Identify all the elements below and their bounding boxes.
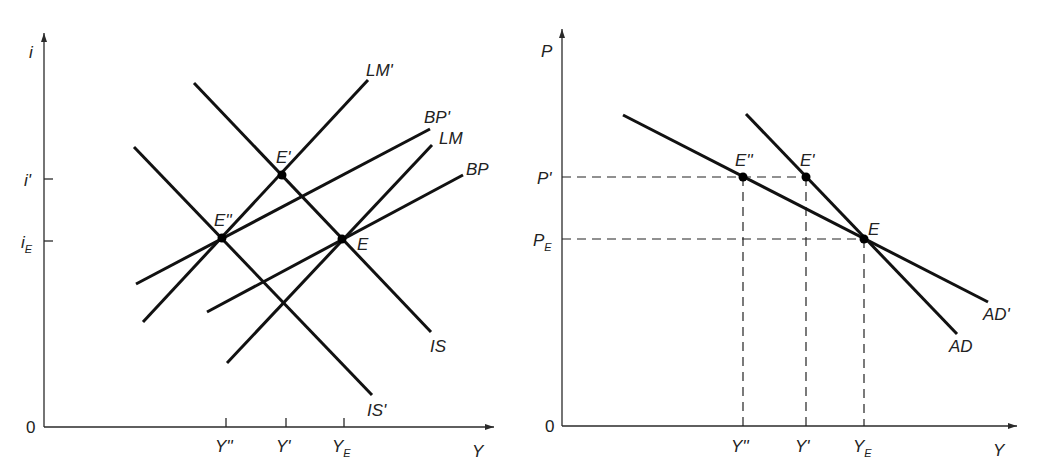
is-curve <box>194 83 431 332</box>
e-label: E <box>357 235 369 254</box>
right-x-axis-label: Y <box>993 441 1006 460</box>
left-x-axis-label: Y <box>472 442 485 461</box>
e-point <box>338 235 347 244</box>
right-y-axis-label: P <box>541 42 553 61</box>
diagram-canvas: i Y 0 i' iE Y'' Y' YE LM' BP' LM BP IS I… <box>0 0 1038 472</box>
right-e-double-prime-point <box>739 173 748 182</box>
y-e-label: YE <box>332 437 351 459</box>
lm-prime-label: LM' <box>366 61 394 80</box>
e-prime-label: E' <box>276 148 291 167</box>
i-e-label: iE <box>21 233 33 255</box>
islmbp-panel: i Y 0 i' iE Y'' Y' YE LM' BP' LM BP IS I… <box>21 33 494 461</box>
ad-prime-label: AD' <box>982 305 1011 324</box>
bp-curve <box>207 175 463 312</box>
right-e-label: E <box>868 220 880 239</box>
right-y-prime-label: Y' <box>795 437 810 456</box>
ad-curve <box>746 114 957 334</box>
is-prime-curve <box>134 147 372 395</box>
e-double-prime-point <box>218 234 227 243</box>
e-prime-point <box>278 171 287 180</box>
right-e-prime-label: E' <box>800 151 815 170</box>
bp-label: BP <box>466 160 489 179</box>
p-prime-label: P' <box>537 169 552 188</box>
bp-prime-label: BP' <box>424 108 451 127</box>
lm-curve <box>227 145 432 363</box>
i-prime-label: i' <box>24 171 32 190</box>
right-y-double-prime-label: Y'' <box>731 437 750 456</box>
ad-label: AD <box>948 337 973 356</box>
right-e-double-prime-label: E'' <box>735 151 754 170</box>
e-double-prime-label: E'' <box>214 211 233 230</box>
right-e-prime-point <box>802 173 811 182</box>
is-prime-label: IS' <box>367 401 387 420</box>
lm-label: LM <box>439 129 463 148</box>
y-double-prime-label: Y'' <box>215 437 234 456</box>
p-e-label: PE <box>533 231 552 253</box>
left-origin-label: 0 <box>26 418 35 437</box>
left-y-axis-label: i <box>29 43 34 62</box>
ad-panel: P Y 0 P' PE Y'' Y' YE AD' AD E'' E' E <box>533 29 1017 460</box>
is-label: IS <box>430 337 447 356</box>
right-y-e-label: YE <box>853 437 872 459</box>
y-prime-label: Y' <box>276 437 291 456</box>
right-origin-label: 0 <box>545 417 554 436</box>
